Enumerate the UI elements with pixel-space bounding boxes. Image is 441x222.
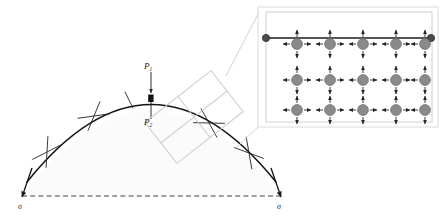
callout-connectors — [226, 12, 259, 148]
bar-node-left — [262, 34, 269, 41]
label-sigma-left: σ — [18, 203, 22, 211]
label-p1: P1 — [144, 62, 152, 71]
figure-canvas: P1 P2 σ σ — [0, 0, 441, 222]
label-sigma-right: σ — [277, 203, 281, 211]
diagram-svg — [0, 0, 441, 222]
label-p2: P2 — [144, 118, 152, 127]
apex-marker — [148, 95, 153, 103]
inset-frame — [258, 7, 438, 127]
